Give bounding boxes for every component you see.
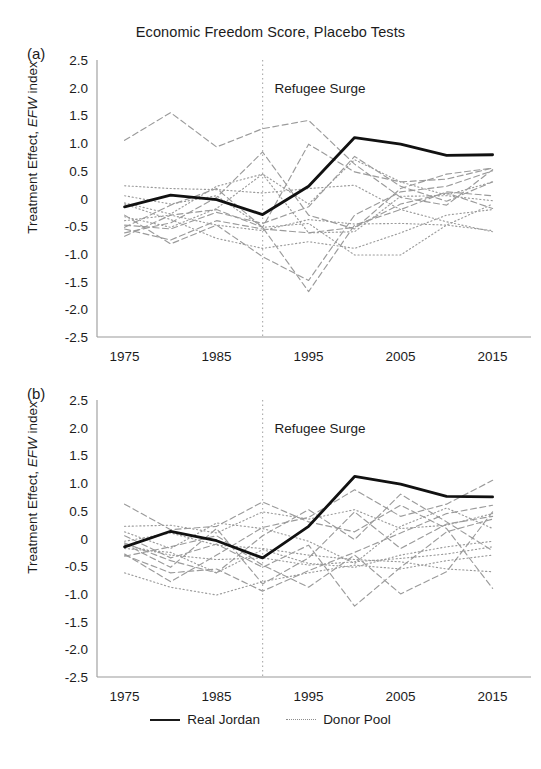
panel-b: (b) Treatment Effect, EFW index 2.52.01.… [0, 380, 541, 710]
y-tick-label: -1.5 [65, 615, 88, 630]
y-tick-label: -1.0 [65, 247, 88, 262]
donor-pool-line [125, 113, 493, 206]
legend-entry-donor-pool: Donor Pool [286, 712, 391, 727]
legend-label-real-jordan: Real Jordan [187, 712, 260, 727]
legend-entry-real-jordan: Real Jordan [150, 712, 260, 727]
donor-pool-line [125, 555, 493, 595]
x-tick-label: 2005 [386, 689, 416, 704]
y-tick-label: 0.5 [69, 504, 88, 519]
refugee-surge-annotation: Refugee Surge [275, 421, 366, 436]
y-tick-label: 2.0 [69, 421, 88, 436]
x-tick-label: 1995 [294, 349, 324, 364]
y-tick-label: 0 [80, 192, 88, 207]
y-tick-label: 1.5 [69, 108, 88, 123]
y-tick-label: 1.5 [69, 448, 88, 463]
refugee-surge-annotation: Refugee Surge [275, 81, 366, 96]
y-tick-label: -1.5 [65, 275, 88, 290]
panel-a-plot: 2.52.01.51.00.50-0.5-1.0-1.5-2.0-2.51975… [0, 40, 541, 370]
x-tick-label: 1975 [110, 689, 140, 704]
dotted-line-swatch-icon [286, 719, 316, 720]
y-tick-label: 1.0 [69, 476, 88, 491]
x-tick-label: 1985 [202, 349, 232, 364]
y-tick-label: -2.5 [65, 670, 88, 685]
x-tick-label: 1985 [202, 689, 232, 704]
solid-line-swatch-icon [150, 719, 180, 721]
y-tick-label: -2.0 [65, 642, 88, 657]
x-tick-label: 1995 [294, 689, 324, 704]
y-tick-label: 2.5 [69, 393, 88, 408]
x-tick-label: 2005 [386, 349, 416, 364]
donor-pool-line [125, 144, 493, 236]
y-tick-label: -2.5 [65, 330, 88, 345]
y-tick-label: 0.5 [69, 164, 88, 179]
legend-label-donor-pool: Donor Pool [323, 712, 391, 727]
x-tick-label: 2015 [478, 349, 508, 364]
y-tick-label: -0.5 [65, 219, 88, 234]
y-tick-label: 2.0 [69, 81, 88, 96]
y-tick-label: -1.0 [65, 587, 88, 602]
y-tick-label: -2.0 [65, 302, 88, 317]
chart-title: Economic Freedom Score, Placebo Tests [0, 24, 541, 40]
placebo-test-figure: Economic Freedom Score, Placebo Tests (a… [0, 0, 541, 769]
donor-pool-line [125, 193, 493, 240]
chart-legend: Real Jordan Donor Pool [0, 712, 541, 727]
panel-b-plot: 2.52.01.51.00.50-0.5-1.0-1.5-2.0-2.51975… [0, 380, 541, 710]
x-tick-label: 1975 [110, 349, 140, 364]
x-tick-label: 2015 [478, 689, 508, 704]
y-tick-label: 0 [80, 532, 88, 547]
y-tick-label: -0.5 [65, 559, 88, 574]
donor-pool-line [125, 480, 493, 581]
y-tick-label: 1.0 [69, 136, 88, 151]
donor-pool-line [125, 196, 493, 255]
donor-pool-line [125, 204, 493, 248]
panel-a: (a) Treatment Effect, EFW index 2.52.01.… [0, 40, 541, 370]
y-tick-label: 2.5 [69, 53, 88, 68]
